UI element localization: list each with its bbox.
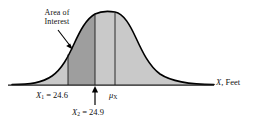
label-x2-value: 24.9 bbox=[89, 107, 104, 117]
area-of-interest-line2: Interest bbox=[28, 17, 86, 26]
label-mu: μX bbox=[109, 91, 117, 101]
x-axis-label: X, Feet bbox=[216, 78, 240, 88]
x-axis-label-unit: Feet bbox=[225, 77, 240, 87]
label-x1-subscript: 1 bbox=[41, 94, 44, 100]
label-x2: X2 = 24.9 bbox=[72, 108, 104, 118]
label-x1: X1 = 24.6 bbox=[36, 91, 68, 101]
label-x2-equals: = bbox=[80, 107, 89, 117]
normal-curve-figure: Area of Interest X1 = 24.6 X2 = 24.9 μX … bbox=[0, 0, 254, 128]
area-of-interest-annotation: Area of Interest bbox=[28, 8, 86, 26]
x2-callout-arrowhead bbox=[92, 86, 98, 93]
label-mu-subscript: X bbox=[113, 94, 117, 100]
label-x2-subscript: 2 bbox=[77, 111, 80, 117]
label-x1-equals: = bbox=[44, 90, 53, 100]
area-of-interest-line1: Area of bbox=[28, 8, 86, 17]
label-x1-value: 24.6 bbox=[53, 90, 68, 100]
area-of-interest-arrowhead bbox=[66, 43, 72, 49]
